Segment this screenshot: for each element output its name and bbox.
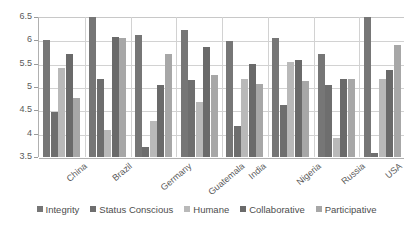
y-axis-tick-label: 6.5	[0, 12, 32, 21]
grouped-bar-chart: ChinaBrazilGermanyGuatemalaIndiaNigeriaR…	[0, 0, 413, 227]
bar[interactable]	[51, 112, 58, 157]
bar[interactable]	[119, 38, 126, 157]
legend-swatch-icon	[240, 206, 246, 212]
bar-group-russia	[314, 17, 360, 157]
bar-group-brazil	[85, 17, 131, 157]
legend-swatch-icon	[90, 206, 96, 212]
bar[interactable]	[226, 41, 233, 157]
legend-label: Humane	[193, 204, 229, 215]
bar[interactable]	[97, 79, 104, 157]
bar[interactable]	[73, 98, 80, 157]
bar[interactable]	[135, 35, 142, 157]
bar[interactable]	[188, 80, 195, 157]
bar[interactable]	[272, 38, 279, 157]
y-axis-tick-mark	[34, 17, 38, 18]
bar[interactable]	[280, 105, 287, 157]
legend-label: Integrity	[46, 204, 80, 215]
x-axis-label-china: China	[64, 161, 88, 184]
y-axis-tick-label: 3.5	[0, 152, 32, 161]
bar[interactable]	[325, 85, 332, 157]
x-axis-label-russia: Russia	[340, 161, 368, 186]
legend-swatch-icon	[37, 206, 43, 212]
bar[interactable]	[241, 79, 248, 157]
y-axis-tick-label: 4.5	[0, 105, 32, 114]
legend-label: Participative	[325, 204, 377, 215]
bar[interactable]	[318, 54, 325, 157]
x-axis-label-brazil: Brazil	[110, 161, 134, 183]
bar[interactable]	[58, 68, 65, 157]
y-axis-tick-mark	[34, 157, 38, 158]
y-axis-tick-label: 5	[0, 82, 32, 91]
bar[interactable]	[234, 126, 241, 157]
bar-group-india	[222, 17, 268, 157]
bar[interactable]	[211, 75, 218, 157]
plot-area	[38, 17, 404, 157]
bar[interactable]	[348, 79, 355, 157]
bar[interactable]	[394, 45, 401, 157]
bar-group-china	[39, 17, 85, 157]
bar[interactable]	[196, 102, 203, 157]
legend-item-humane[interactable]: Humane	[184, 204, 229, 215]
legend-label: Collaborative	[249, 204, 304, 215]
bar[interactable]	[302, 81, 309, 157]
legend-item-participative[interactable]: Participative	[316, 204, 377, 215]
bar-group-usa	[359, 17, 405, 157]
y-axis-tick-mark	[34, 110, 38, 111]
bar-group-germany	[131, 17, 177, 157]
bar[interactable]	[249, 64, 256, 157]
y-axis-tick-mark	[34, 64, 38, 65]
bar-group-guatemala	[176, 17, 222, 157]
y-axis-tick-label: 4	[0, 129, 32, 138]
bar[interactable]	[364, 17, 371, 157]
bar[interactable]	[295, 60, 302, 157]
y-axis-tick-label: 5.5	[0, 59, 32, 68]
bar[interactable]	[340, 79, 347, 157]
y-axis-tick-mark	[34, 134, 38, 135]
bar[interactable]	[287, 62, 294, 157]
x-axis-label-guatemala: Guatemala	[206, 161, 246, 197]
bar[interactable]	[150, 121, 157, 157]
legend-swatch-icon	[184, 206, 190, 212]
bar[interactable]	[89, 17, 96, 157]
bar[interactable]	[203, 47, 210, 157]
bar[interactable]	[256, 84, 263, 157]
x-axis-label-india: India	[246, 161, 267, 181]
bar[interactable]	[333, 138, 340, 157]
bar[interactable]	[104, 130, 111, 157]
bar[interactable]	[43, 40, 50, 157]
x-axis-label-nigeria: Nigeria	[294, 161, 322, 187]
bar[interactable]	[181, 30, 188, 157]
legend-item-status-conscious[interactable]: Status Conscious	[90, 204, 173, 215]
legend-label: Status Conscious	[99, 204, 173, 215]
legend-item-collaborative[interactable]: Collaborative	[240, 204, 304, 215]
bar[interactable]	[157, 85, 164, 157]
x-axis-label-germany: Germany	[159, 161, 194, 192]
y-axis-tick-label: 6	[0, 35, 32, 44]
legend-item-integrity[interactable]: Integrity	[37, 204, 80, 215]
y-axis-tick-mark	[34, 87, 38, 88]
bar[interactable]	[379, 79, 386, 157]
x-axis-label-usa: USA	[383, 161, 404, 181]
bar[interactable]	[165, 54, 172, 157]
legend-swatch-icon	[316, 206, 322, 212]
x-axis-labels: ChinaBrazilGermanyGuatemalaIndiaNigeriaR…	[38, 157, 404, 197]
bar[interactable]	[386, 70, 393, 157]
bar-group-nigeria	[268, 17, 314, 157]
bar[interactable]	[112, 37, 119, 157]
y-axis-tick-mark	[34, 40, 38, 41]
bar[interactable]	[66, 54, 73, 157]
chart-legend: IntegrityStatus ConsciousHumaneCollabora…	[0, 200, 413, 218]
bar[interactable]	[142, 147, 149, 157]
